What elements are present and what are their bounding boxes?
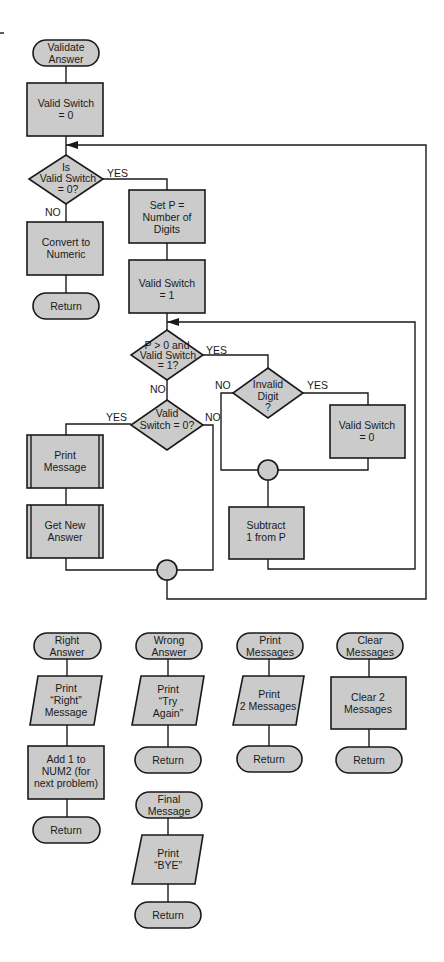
svg-text:2 Messages: 2 Messages bbox=[240, 700, 297, 712]
return-terminal-1: Return bbox=[33, 293, 99, 319]
no-label: NO bbox=[205, 411, 221, 423]
svg-text:?: ? bbox=[265, 401, 271, 413]
subroutine-clear-messages: Clear Messages Clear 2 Messages Return bbox=[331, 633, 406, 773]
no-label: NO bbox=[150, 383, 166, 395]
process-convert-to-numeric: Convert to Numeric bbox=[27, 222, 103, 275]
svg-text:Clear: Clear bbox=[357, 634, 383, 646]
svg-text:Print: Print bbox=[157, 683, 179, 695]
no-label: NO bbox=[215, 379, 231, 391]
svg-text:Final: Final bbox=[158, 793, 181, 805]
connector-circle bbox=[157, 560, 177, 580]
svg-text:“BYE”: “BYE” bbox=[154, 859, 183, 871]
svg-text:Messages: Messages bbox=[346, 646, 394, 658]
svg-text:next problem): next problem) bbox=[34, 777, 98, 789]
subroutine-right-answer: Right Answer Print “Right” Message Add 1… bbox=[28, 633, 104, 843]
svg-text:Print: Print bbox=[54, 449, 76, 461]
svg-text:NUM2 (for: NUM2 (for bbox=[42, 765, 91, 777]
svg-text:Message: Message bbox=[148, 805, 191, 817]
svg-text:Valid Switch: Valid Switch bbox=[139, 277, 196, 289]
yes-label: YES bbox=[107, 167, 128, 179]
svg-text:Answer: Answer bbox=[48, 53, 84, 65]
svg-text:Return: Return bbox=[152, 909, 184, 921]
yes-label: YES bbox=[307, 379, 328, 391]
svg-text:Return: Return bbox=[50, 300, 82, 312]
svg-text:Print: Print bbox=[258, 688, 280, 700]
predefined-get-new-answer: Get New Answer bbox=[27, 505, 103, 558]
yes-label: YES bbox=[206, 344, 227, 356]
svg-text:Validate: Validate bbox=[47, 41, 84, 53]
svg-text:Number of: Number of bbox=[142, 211, 191, 223]
no-label: NO bbox=[45, 206, 61, 218]
svg-text:Answer: Answer bbox=[151, 646, 187, 658]
process-valid-switch-1: Valid Switch = 1 bbox=[129, 260, 205, 313]
process-set-valid-switch-0: Valid Switch = 0 bbox=[330, 405, 405, 458]
svg-text:Valid Switch: Valid Switch bbox=[339, 419, 396, 431]
decision-invalid-digit: Invalid Digit ? bbox=[233, 368, 303, 418]
svg-text:Answer: Answer bbox=[47, 531, 83, 543]
svg-text:Right: Right bbox=[55, 634, 80, 646]
svg-text:Return: Return bbox=[353, 754, 385, 766]
svg-text:Numeric: Numeric bbox=[46, 248, 85, 260]
process-subtract: Subtract 1 from P bbox=[229, 507, 304, 559]
svg-text:Invalid: Invalid bbox=[253, 378, 284, 390]
predefined-print-message: Print Message bbox=[27, 435, 103, 488]
svg-text:= 1?: = 1? bbox=[158, 359, 179, 371]
process-valid-switch-0: Valid Switch = 0 bbox=[27, 83, 103, 136]
svg-text:Digits: Digits bbox=[154, 223, 180, 235]
svg-text:1 from P: 1 from P bbox=[246, 531, 286, 543]
connector-circle bbox=[258, 460, 278, 480]
decision-p-greater-0: P > 0 and Valid Switch = 1? bbox=[131, 330, 203, 380]
svg-text:Valid: Valid bbox=[156, 407, 179, 419]
svg-text:“Try: “Try bbox=[159, 695, 178, 707]
svg-text:Print: Print bbox=[157, 847, 179, 859]
svg-text:Valid Switch: Valid Switch bbox=[38, 97, 95, 109]
decision-is-valid-switch-0: Is Valid Switch = 0? bbox=[29, 155, 103, 204]
svg-text:Switch = 0?: Switch = 0? bbox=[140, 419, 195, 431]
svg-text:Answer: Answer bbox=[49, 646, 85, 658]
flowchart-canvas: Validate Answer Valid Switch = 0 Is Vali… bbox=[0, 0, 444, 962]
yes-label: YES bbox=[106, 411, 127, 423]
svg-text:Clear 2: Clear 2 bbox=[351, 691, 385, 703]
svg-text:= 0: = 0 bbox=[360, 431, 375, 443]
svg-text:Return: Return bbox=[50, 824, 82, 836]
subroutine-wrong-answer: Wrong Answer Print “Try Again” Return bbox=[132, 633, 204, 773]
svg-text:Print: Print bbox=[55, 682, 77, 694]
svg-text:Subtract: Subtract bbox=[246, 519, 285, 531]
svg-text:Return: Return bbox=[152, 754, 184, 766]
svg-text:Return: Return bbox=[253, 753, 285, 765]
svg-text:= 1: = 1 bbox=[160, 289, 175, 301]
decision-valid-switch-0: Valid Switch = 0? bbox=[131, 400, 203, 450]
svg-text:= 0?: = 0? bbox=[58, 183, 79, 195]
svg-text:Print: Print bbox=[259, 634, 281, 646]
svg-text:Message: Message bbox=[45, 706, 88, 718]
svg-text:“Right”: “Right” bbox=[50, 694, 82, 706]
svg-text:Add 1 to: Add 1 to bbox=[46, 753, 85, 765]
start-terminal-validate-answer: Validate Answer bbox=[33, 40, 99, 66]
subroutine-print-messages: Print Messages Print 2 Messages Return bbox=[233, 633, 304, 772]
svg-text:Message: Message bbox=[44, 461, 87, 473]
svg-text:Get New: Get New bbox=[45, 519, 86, 531]
svg-text:Wrong: Wrong bbox=[154, 634, 185, 646]
process-set-p: Set P = Number of Digits bbox=[129, 190, 205, 243]
svg-text:Messages: Messages bbox=[246, 646, 294, 658]
svg-text:= 0: = 0 bbox=[59, 109, 74, 121]
svg-text:Convert to: Convert to bbox=[42, 236, 91, 248]
svg-text:Set P =: Set P = bbox=[150, 199, 185, 211]
svg-text:Messages: Messages bbox=[344, 703, 392, 715]
subroutine-final-message: Final Message Print “BYE” Return bbox=[132, 792, 203, 928]
svg-text:Again”: Again” bbox=[153, 707, 184, 719]
